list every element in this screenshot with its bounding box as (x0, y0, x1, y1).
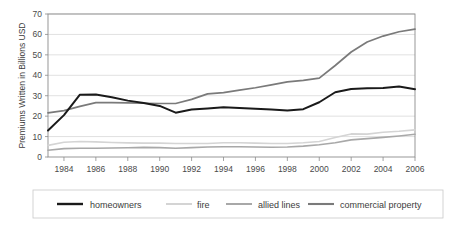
series-line-commercial-property (48, 29, 415, 113)
x-tick-label: 2006 (406, 164, 425, 174)
x-tick-label: 2000 (310, 164, 329, 174)
x-tick-label: 1990 (150, 164, 169, 174)
x-tick-label: 1998 (278, 164, 297, 174)
x-tick-label: 2002 (342, 164, 361, 174)
legend-label-fire: fire (197, 200, 210, 210)
x-tick-label: 1986 (86, 164, 105, 174)
line-chart: 0102030405060701984198619881990199219941… (0, 0, 455, 231)
y-tick-label: 50 (33, 50, 43, 60)
series-line-homeowners (48, 87, 415, 131)
plot-frame (48, 14, 415, 157)
legend-label-commercial-property: commercial property (340, 200, 422, 210)
x-tick-label: 1994 (214, 164, 233, 174)
chart-container: 0102030405060701984198619881990199219941… (0, 0, 455, 231)
y-tick-label: 30 (33, 91, 43, 101)
y-tick-label: 40 (33, 70, 43, 80)
y-tick-label: 20 (33, 111, 43, 121)
y-tick-label: 70 (33, 9, 43, 19)
x-tick-label: 1992 (182, 164, 201, 174)
y-tick-label: 0 (37, 152, 42, 162)
x-tick-label: 1996 (246, 164, 265, 174)
x-tick-label: 2004 (374, 164, 393, 174)
y-axis-title: Premiums Written in Billions USD (17, 23, 27, 149)
series-line-fire (48, 130, 415, 146)
y-tick-label: 60 (33, 29, 43, 39)
legend-label-allied-lines: allied lines (258, 200, 301, 210)
x-tick-label: 1988 (118, 164, 137, 174)
y-tick-label: 10 (33, 132, 43, 142)
x-tick-label: 1984 (54, 164, 73, 174)
legend-label-homeowners: homeowners (90, 200, 142, 210)
